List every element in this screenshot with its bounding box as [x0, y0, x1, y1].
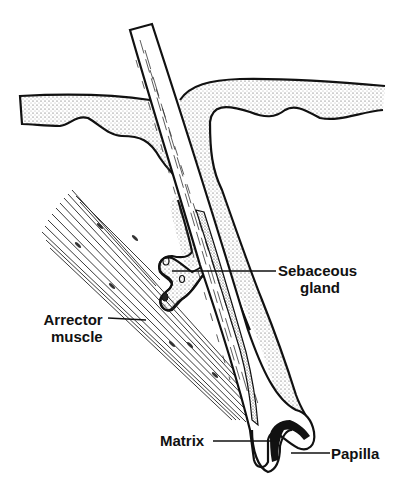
sebaceous-gland-label-line1: Sebaceous — [278, 262, 357, 279]
hair-follicle-diagram — [0, 0, 408, 497]
sebaceous-gland-label: Sebaceous gland — [278, 262, 357, 296]
arrector-muscle-label-line2: muscle — [40, 328, 103, 345]
matrix-label: Matrix — [160, 432, 204, 449]
arrector-muscle-label: Arrector muscle — [40, 311, 103, 345]
arrector-muscle-label-line1: Arrector — [40, 311, 103, 328]
papilla-label: Papilla — [331, 445, 379, 462]
sebaceous-gland-label-line2: gland — [278, 279, 357, 296]
